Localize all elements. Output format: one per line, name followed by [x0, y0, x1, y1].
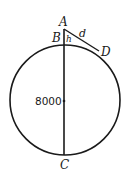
- label-c: C: [60, 158, 69, 172]
- center-point: [63, 100, 66, 103]
- circle: [10, 45, 120, 155]
- label-d-point: D: [100, 45, 111, 59]
- label-b: B: [51, 31, 61, 45]
- label-d: d: [79, 27, 86, 40]
- label-h: h: [66, 34, 72, 44]
- label-diameter: 8000: [35, 95, 62, 107]
- label-a: A: [58, 15, 68, 29]
- earth-tangent-diagram: A B h d D 8000 C: [0, 0, 126, 181]
